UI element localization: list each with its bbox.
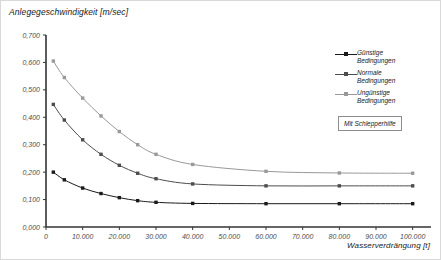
- data-point-marker: [63, 178, 66, 181]
- legend-marker-icon-2: [335, 90, 357, 99]
- data-point-marker: [99, 114, 102, 117]
- y-tick-label: 0,700: [22, 32, 40, 39]
- data-point-marker: [52, 103, 55, 106]
- data-point-marker: [264, 170, 267, 173]
- x-tick-label: 0: [44, 233, 48, 240]
- data-point-marker: [411, 172, 414, 175]
- x-axis-title: Wasserverdrängung [t]: [347, 241, 430, 250]
- y-tick-label: 0,600: [22, 59, 40, 66]
- data-point-marker: [99, 192, 102, 195]
- x-tick-label: 20.000: [108, 233, 131, 240]
- data-point-marker: [154, 201, 157, 204]
- legend-marker-icon-0: [335, 50, 357, 59]
- data-point-marker: [118, 196, 121, 199]
- data-point-marker: [411, 202, 414, 205]
- data-point-marker: [136, 199, 139, 202]
- legend-label-2: Ungünstige Bedingungen: [357, 89, 395, 105]
- data-point-marker: [264, 202, 267, 205]
- data-point-marker: [411, 184, 414, 187]
- y-tick-label: 0,200: [22, 169, 40, 176]
- x-tick-label: 30.000: [145, 233, 167, 240]
- y-tick-label: 0,100: [22, 196, 40, 203]
- y-tick-label: 0,400: [22, 114, 40, 121]
- x-tick-label: 60.000: [255, 233, 277, 240]
- chart-legend: Günstige Bedingungen Normale Bedingungen…: [335, 49, 435, 109]
- x-tick-label: 80.000: [329, 233, 351, 240]
- legend-label-1: Normale Bedingungen: [357, 69, 395, 85]
- legend-item-guenstige: Günstige Bedingungen: [335, 49, 435, 65]
- data-point-marker: [191, 182, 194, 185]
- data-point-marker: [81, 138, 84, 141]
- data-point-marker: [191, 163, 194, 166]
- y-tick-label: 0,300: [22, 141, 40, 148]
- y-tick-label: 0,000: [22, 224, 40, 231]
- data-point-marker: [154, 153, 157, 156]
- annotation-box: Mit Schlepperhilfe: [338, 116, 402, 131]
- data-point-marker: [264, 184, 267, 187]
- data-point-marker: [191, 202, 194, 205]
- legend-marker-icon-1: [335, 70, 357, 79]
- chart-container: Anlegegeschwindigkeit [m/sec] 0,0000,100…: [0, 0, 441, 260]
- x-tick-label: 100.000: [400, 233, 425, 240]
- data-point-marker: [118, 164, 121, 167]
- x-tick-label: 50.000: [219, 233, 241, 240]
- data-point-marker: [136, 172, 139, 175]
- y-tick-label: 0,500: [22, 86, 40, 93]
- x-tick-label: 10.000: [72, 233, 94, 240]
- data-point-marker: [81, 96, 84, 99]
- x-tick-label: 70.000: [292, 233, 314, 240]
- data-point-marker: [154, 177, 157, 180]
- data-point-marker: [81, 186, 84, 189]
- legend-item-unguenstige: Ungünstige Bedingungen: [335, 89, 435, 105]
- data-point-marker: [52, 59, 55, 62]
- legend-item-normale: Normale Bedingungen: [335, 69, 435, 85]
- data-point-marker: [136, 143, 139, 146]
- data-point-marker: [63, 118, 66, 121]
- x-tick-label: 90.000: [365, 233, 387, 240]
- data-point-marker: [338, 202, 341, 205]
- data-point-marker: [338, 184, 341, 187]
- x-tick-label: 40.000: [182, 233, 204, 240]
- data-point-marker: [338, 171, 341, 174]
- data-point-marker: [63, 76, 66, 79]
- data-point-marker: [99, 153, 102, 156]
- series-line-0: [53, 172, 412, 204]
- data-point-marker: [52, 170, 55, 173]
- data-point-marker: [118, 130, 121, 133]
- legend-label-0: Günstige Bedingungen: [357, 49, 395, 65]
